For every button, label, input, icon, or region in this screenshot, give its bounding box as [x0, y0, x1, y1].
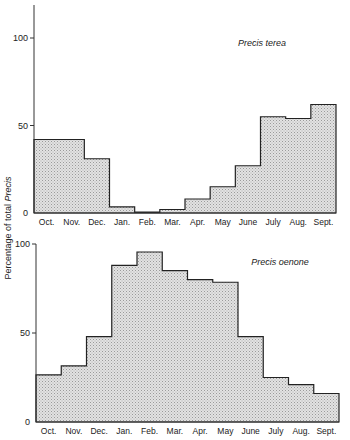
- x-tick-label: May: [217, 426, 234, 436]
- chart-title: Precis oenone: [251, 257, 309, 267]
- y-tick-label: 100: [15, 239, 30, 249]
- chart-title: Precis terea: [238, 38, 286, 48]
- y-ticks: 050100: [13, 33, 34, 218]
- x-tick-label: June: [239, 217, 258, 227]
- x-tick-label: Aug.: [292, 426, 310, 436]
- y-tick-label: 50: [18, 121, 28, 131]
- y-axis-label-genus: Precis: [3, 176, 13, 202]
- histogram-area: [36, 252, 339, 422]
- x-tick-label: Dec.: [88, 217, 105, 227]
- y-ticks: 050100: [15, 239, 36, 427]
- x-tick-labels: Oct.Nov.Dec.Jan.Feb.Mar.Apr.MayJuneJulyA…: [41, 426, 336, 436]
- x-tick-label: Aug.: [290, 217, 308, 227]
- x-tick-label: Apr.: [190, 217, 205, 227]
- y-axis-label-text: Percentage of total: [3, 201, 13, 279]
- x-tick-label: Mar.: [164, 217, 181, 227]
- x-tick-labels: Oct.Nov.Dec.Jan.Feb.Mar.Apr.MayJuneJulyA…: [39, 217, 334, 227]
- x-tick-label: Jan.: [114, 217, 130, 227]
- x-tick-label: Sept.: [313, 217, 333, 227]
- x-tick-label: Mar.: [167, 426, 184, 436]
- x-tick-label: Dec.: [90, 426, 107, 436]
- x-tick-label: Oct.: [39, 217, 55, 227]
- x-tick-label: Sept.: [316, 426, 336, 436]
- x-tick-label: Oct.: [41, 426, 57, 436]
- histogram-area: [34, 105, 336, 214]
- x-tick-label: May: [215, 217, 232, 227]
- figure: 050100 Oct.Nov.Dec.Jan.Feb.Mar.Apr.MayJu…: [0, 0, 350, 440]
- x-tick-label: Feb.: [141, 426, 158, 436]
- y-tick-label: 100: [13, 33, 28, 43]
- x-tick-label: Apr.: [193, 426, 208, 436]
- y-tick-label: 0: [25, 417, 30, 427]
- chart-precis-terea: 050100 Oct.Nov.Dec.Jan.Feb.Mar.Apr.MayJu…: [13, 5, 336, 227]
- y-tick-label: 0: [23, 208, 28, 218]
- x-tick-label: June: [241, 426, 260, 436]
- x-tick-label: Jan.: [116, 426, 132, 436]
- x-tick-label: July: [268, 426, 284, 436]
- x-tick-label: Nov.: [65, 426, 82, 436]
- y-tick-label: 50: [20, 328, 30, 338]
- x-tick-label: July: [266, 217, 282, 227]
- x-tick-label: Nov.: [63, 217, 80, 227]
- x-tick-label: Feb.: [139, 217, 156, 227]
- y-axis-label: Percentage of total Precis: [3, 176, 13, 280]
- chart-precis-oenone: 050100 Oct.Nov.Dec.Jan.Feb.Mar.Apr.MayJu…: [15, 239, 339, 436]
